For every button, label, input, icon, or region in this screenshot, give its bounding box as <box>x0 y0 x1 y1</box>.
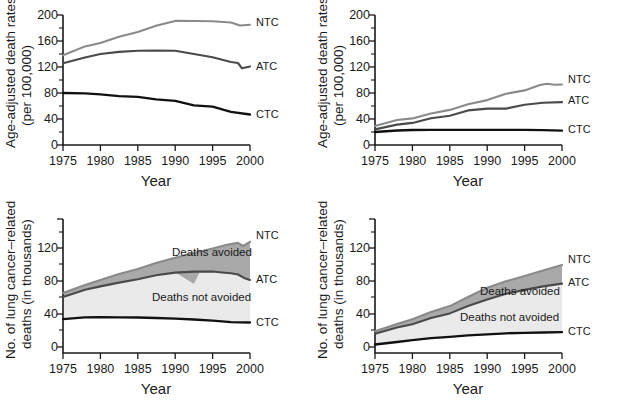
series-labels-bottom-right: NTC ATC CTC <box>568 253 591 337</box>
svg-text:1995: 1995 <box>199 154 227 168</box>
svg-text:0: 0 <box>51 138 58 152</box>
line-atc <box>375 102 562 129</box>
series-label-atc: ATC <box>568 276 589 288</box>
series-label-atc: ATC <box>256 60 277 72</box>
svg-text:deaths (in thousands): deaths (in thousands) <box>331 219 346 349</box>
svg-text:1995: 1995 <box>511 362 539 376</box>
band-label-deaths-not-avoided: Deaths not avoided <box>460 311 559 323</box>
svg-text:1975: 1975 <box>49 154 77 168</box>
series-labels-bottom-left: NTC ATC CTC <box>256 229 279 328</box>
svg-text:1985: 1985 <box>436 362 464 376</box>
y-axis-label-bottom-left: No. of lung cancer–related deaths (in th… <box>3 201 34 359</box>
panel-top-right-plot: Age-adjusted death rates (per 100,000) 2… <box>312 0 624 201</box>
svg-text:1980: 1980 <box>398 362 426 376</box>
svg-text:0: 0 <box>363 340 370 354</box>
svg-text:1995: 1995 <box>199 362 227 376</box>
line-ctc <box>63 93 250 115</box>
svg-text:120: 120 <box>349 241 370 255</box>
series-label-ctc: CTC <box>256 316 279 328</box>
series-label-atc: ATC <box>568 94 589 106</box>
svg-text:1980: 1980 <box>86 362 114 376</box>
x-tickmarks-bottom-left <box>63 353 250 359</box>
svg-text:80: 80 <box>356 86 370 100</box>
x-tick-labels-bottom-right: 1975 1980 1985 1990 1995 2000 <box>361 362 576 376</box>
svg-text:160: 160 <box>37 34 58 48</box>
svg-text:2000: 2000 <box>236 154 264 168</box>
svg-text:1985: 1985 <box>436 154 464 168</box>
svg-text:No. of lung cancer–related: No. of lung cancer–related <box>315 201 330 359</box>
panel-top-right: Age-adjusted death rates (per 100,000) 2… <box>312 0 624 201</box>
y-axis-label-bottom-right: No. of lung cancer–related deaths (in th… <box>315 201 346 359</box>
series-label-ctc: CTC <box>568 123 591 135</box>
svg-text:2000: 2000 <box>548 362 576 376</box>
y-axis-label-top-right: Age-adjusted death rates (per 100,000) <box>315 0 346 148</box>
svg-text:40: 40 <box>356 307 370 321</box>
svg-text:2000: 2000 <box>236 362 264 376</box>
svg-text:Age-adjusted death rates: Age-adjusted death rates <box>3 0 18 148</box>
series-label-ntc: NTC <box>256 16 279 28</box>
series-labels-top-right: NTC ATC CTC <box>568 73 591 135</box>
line-atc <box>63 51 250 69</box>
band-label-deaths-avoided: Deaths avoided <box>480 285 560 297</box>
series-label-ctc: CTC <box>256 108 279 120</box>
x-tickmarks-top-right <box>375 145 562 151</box>
svg-text:80: 80 <box>44 86 58 100</box>
svg-text:1990: 1990 <box>161 154 189 168</box>
svg-text:1985: 1985 <box>124 154 152 168</box>
svg-text:1975: 1975 <box>49 362 77 376</box>
line-ntc <box>375 84 562 126</box>
x-axis-label-top-left: Year <box>141 172 171 189</box>
series-lines-top-right <box>375 84 562 132</box>
x-axis-label-bottom-left: Year <box>141 380 171 397</box>
y-axis-label-top-left: Age-adjusted death rates (per 100,000) <box>3 0 34 148</box>
axis-lines-top-right <box>375 15 562 145</box>
band-label-deaths-avoided: Deaths avoided <box>172 246 252 258</box>
svg-text:120: 120 <box>349 60 370 74</box>
svg-text:1990: 1990 <box>473 154 501 168</box>
svg-text:80: 80 <box>356 274 370 288</box>
series-label-ntc: NTC <box>256 229 279 241</box>
svg-text:1995: 1995 <box>511 154 539 168</box>
series-label-ntc: NTC <box>568 253 591 265</box>
series-labels-top-left: NTC ATC CTC <box>256 16 279 120</box>
panel-bottom-right: No. of lung cancer–related deaths (in th… <box>312 201 624 402</box>
svg-text:deaths (in thousands): deaths (in thousands) <box>19 219 34 349</box>
svg-text:(per 100,000): (per 100,000) <box>19 45 34 126</box>
svg-text:120: 120 <box>37 60 58 74</box>
svg-text:200: 200 <box>37 8 58 22</box>
svg-text:160: 160 <box>349 34 370 48</box>
y-tick-labels-bottom-right: 120 80 40 0 <box>349 241 370 354</box>
svg-text:1990: 1990 <box>473 362 501 376</box>
svg-text:1980: 1980 <box>398 154 426 168</box>
axis-lines-top-left <box>63 15 250 145</box>
svg-text:0: 0 <box>51 340 58 354</box>
series-label-ntc: NTC <box>568 73 591 85</box>
x-tickmarks-bottom-right <box>375 353 562 359</box>
x-tickmarks-top-left <box>63 145 250 151</box>
svg-text:No. of lung cancer–related: No. of lung cancer–related <box>3 201 18 359</box>
series-label-atc: ATC <box>256 273 277 285</box>
y-tick-labels-top-left: 200 160 120 80 40 0 <box>37 8 58 152</box>
x-tick-labels-top-left: 1975 1980 1985 1990 1995 2000 <box>49 154 264 168</box>
band-label-deaths-not-avoided: Deaths not avoided <box>152 291 251 303</box>
x-tick-labels-bottom-left: 1975 1980 1985 1990 1995 2000 <box>49 362 264 376</box>
svg-text:1975: 1975 <box>361 362 389 376</box>
figure-lung-cancer-mortality-panels: Age-adjusted death rates (per 100,000) 2… <box>0 0 624 402</box>
panel-top-left: Age-adjusted death rates (per 100,000) 2… <box>0 0 312 201</box>
panel-top-left-plot: Age-adjusted death rates (per 100,000) 2… <box>0 0 312 201</box>
y-tick-labels-top-right: 200 160 120 80 40 0 <box>349 8 370 152</box>
panel-bottom-left-plot: No. of lung cancer–related deaths (in th… <box>0 201 312 402</box>
x-axis-label-top-right: Year <box>453 172 483 189</box>
svg-text:80: 80 <box>44 274 58 288</box>
svg-text:2000: 2000 <box>548 154 576 168</box>
panel-bottom-left: No. of lung cancer–related deaths (in th… <box>0 201 312 402</box>
svg-text:40: 40 <box>44 112 58 126</box>
series-label-ctc: CTC <box>568 325 591 337</box>
svg-text:(per 100,000): (per 100,000) <box>331 45 346 126</box>
svg-text:40: 40 <box>356 112 370 126</box>
svg-text:120: 120 <box>37 241 58 255</box>
x-tick-labels-top-right: 1975 1980 1985 1990 1995 2000 <box>361 154 576 168</box>
svg-text:1975: 1975 <box>361 154 389 168</box>
panel-bottom-right-plot: No. of lung cancer–related deaths (in th… <box>312 201 624 402</box>
svg-text:1990: 1990 <box>161 362 189 376</box>
